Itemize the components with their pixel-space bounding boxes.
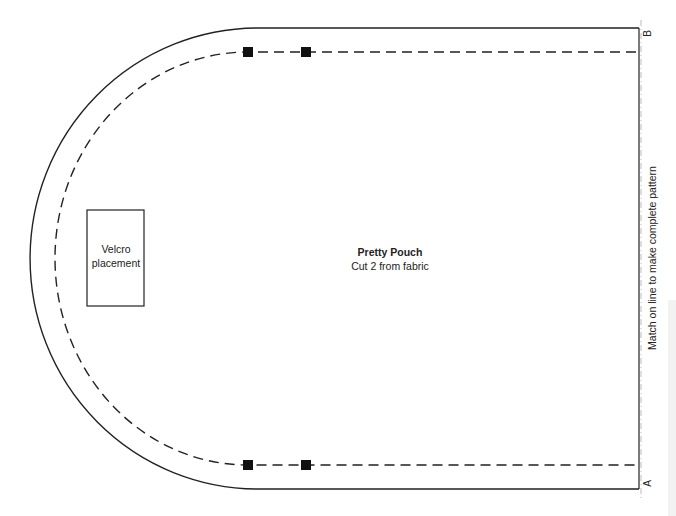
pattern-title: Pretty Pouch — [310, 246, 470, 258]
point-a-label: A — [642, 480, 653, 487]
point-b-label: B — [642, 30, 653, 37]
velcro-label: Velcro placement — [87, 242, 145, 270]
marker-square-top-1 — [243, 47, 253, 57]
marker-square-bottom-1 — [243, 460, 253, 470]
edge-strip — [668, 300, 676, 516]
marker-square-top-2 — [301, 47, 311, 57]
velcro-label-line1: Velcro — [87, 242, 145, 256]
marker-square-bottom-2 — [301, 460, 311, 470]
velcro-label-line2: placement — [87, 256, 145, 270]
match-line-label: Match on line to make complete pattern — [646, 166, 658, 350]
pattern-instruction: Cut 2 from fabric — [310, 260, 470, 272]
